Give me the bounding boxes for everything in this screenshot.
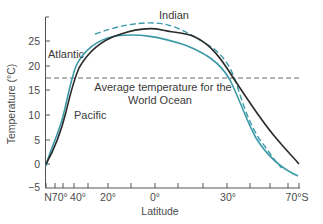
x-tick-s70: 70°S (286, 191, 309, 203)
pacific-label: Pacific (74, 109, 107, 121)
y-tick-neg5: −5 (28, 181, 40, 193)
average-label-line1: Average temperature for the (94, 81, 231, 93)
y-tick-0: 0 (34, 158, 40, 170)
x-tick-0: 0° (150, 191, 160, 203)
temperature-latitude-chart: 25 20 15 10 5 0 −5 N70° 40° 20° 0° 30° 7… (0, 0, 323, 224)
y-tick-10: 10 (28, 109, 40, 121)
average-label-line2: World Ocean (128, 94, 192, 106)
atlantic-label: Atlantic (48, 48, 85, 60)
y-tick-25: 25 (28, 35, 40, 47)
x-tick-40: 40° (70, 191, 86, 203)
x-tick-labels: N70° 40° 20° 0° 30° 70°S (44, 191, 308, 203)
x-tick-30: 30° (220, 191, 236, 203)
y-tick-5: 5 (34, 134, 40, 146)
indian-label: Indian (159, 9, 189, 21)
x-axis (46, 183, 301, 188)
y-axis-title: Temperature (°C) (5, 64, 17, 145)
y-tick-15: 15 (28, 84, 40, 96)
x-axis-title: Latitude (141, 205, 179, 217)
x-tick-n70: N70° (44, 191, 67, 203)
x-tick-20: 20° (100, 191, 116, 203)
y-tick-labels: 25 20 15 10 5 0 −5 (28, 35, 40, 193)
y-tick-20: 20 (28, 60, 40, 72)
